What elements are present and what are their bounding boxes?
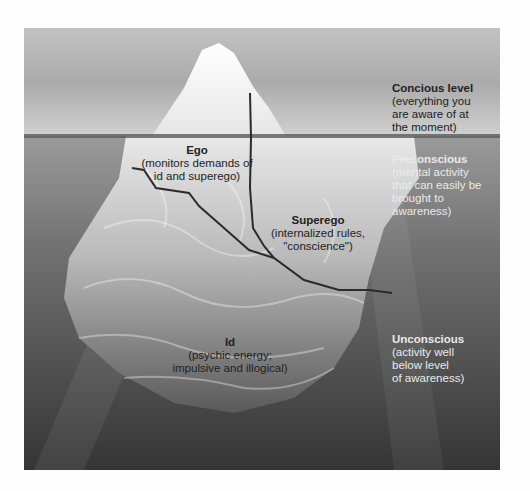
label-preconscious-level: Preconscious (mental activity that can e… bbox=[392, 153, 482, 218]
label-unconscious-level: Unconscious (activity well below level o… bbox=[392, 333, 464, 385]
label-id: Id (psychic energy; impulsive and illogi… bbox=[160, 336, 300, 375]
label-ego: Ego (monitors demands of id and superego… bbox=[132, 144, 262, 183]
label-conscious-level: Concious level (everything you are aware… bbox=[392, 82, 473, 134]
waterline bbox=[24, 134, 500, 138]
label-superego: Superego (internalized rules, "conscienc… bbox=[262, 214, 374, 253]
